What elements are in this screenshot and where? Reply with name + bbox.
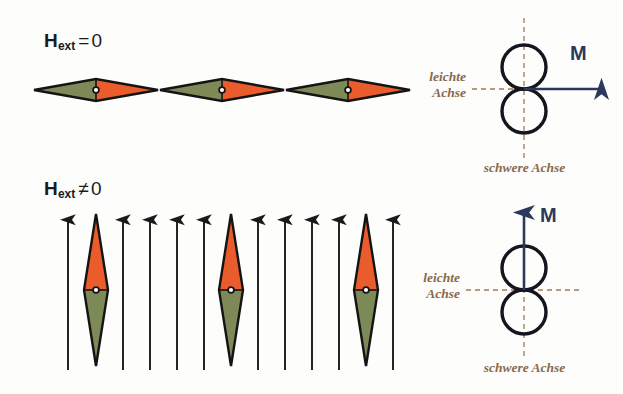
easy-axis-label-top-line2: Achse xyxy=(406,85,466,101)
easy-axis-label-top: leichte Achse xyxy=(406,69,466,101)
field-relation-top: = xyxy=(78,30,89,51)
hard-axis-label-top: schwere Achse xyxy=(452,160,597,176)
field-symbol-top: H xyxy=(44,30,58,51)
particle-row-applied-field xyxy=(84,214,378,366)
field-subscript-bottom: ext xyxy=(58,187,75,201)
magnetization-label-bottom: M xyxy=(540,204,557,227)
field-relation-bottom: ≠ xyxy=(78,178,89,199)
easy-axis-label-bottom-line1: leichte xyxy=(400,270,460,286)
particle-horizontal-2 xyxy=(160,79,284,101)
field-value-top: 0 xyxy=(92,30,103,51)
easy-axis-label-top-line1: leichte xyxy=(406,69,466,85)
particle-horizontal-1 xyxy=(34,79,158,101)
easy-axis-label-bottom: leichte Achse xyxy=(400,270,460,302)
field-label-nonzero: Hext≠0 xyxy=(44,178,102,201)
particle-vertical-1 xyxy=(84,214,108,366)
field-symbol-bottom: H xyxy=(44,178,58,199)
field-value-bottom: 0 xyxy=(91,178,102,199)
hard-axis-label-bottom: schwere Achse xyxy=(452,360,597,376)
field-label-zero: Hext=0 xyxy=(44,30,102,53)
field-subscript-top: ext xyxy=(58,39,75,53)
particle-vertical-3 xyxy=(354,214,378,366)
magnetization-label-top: M xyxy=(570,42,587,65)
anisotropy-figure-top xyxy=(472,18,601,161)
particle-vertical-2 xyxy=(219,214,243,366)
particle-row-zero-field xyxy=(34,79,410,101)
easy-axis-label-bottom-line2: Achse xyxy=(400,286,460,302)
anisotropy-figure-bottom xyxy=(466,213,582,360)
diagram-canvas: Hext=0 Hext≠0 leichte Achse schwere Achs… xyxy=(0,0,623,394)
particle-horizontal-3 xyxy=(286,79,410,101)
